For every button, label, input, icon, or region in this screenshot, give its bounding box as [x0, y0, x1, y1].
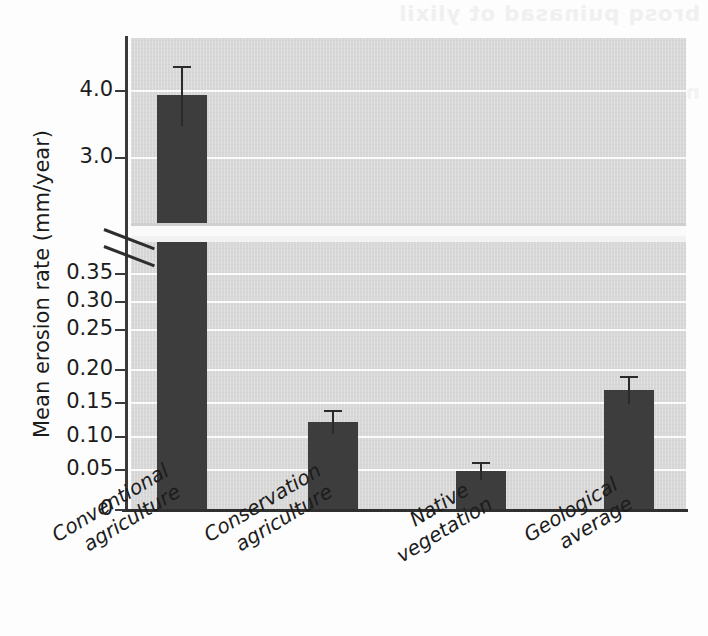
y-ticklabel-0-20: 0.20 — [0, 358, 113, 379]
y-ticklabel-3-0: 3.0 — [0, 146, 113, 167]
y-tick-0-20 — [115, 369, 125, 371]
y-axis-title: Mean erosion rate (mm/year) — [30, 74, 54, 494]
y-tick-3-0 — [115, 157, 125, 159]
y-tick-0-35 — [115, 273, 125, 275]
y-tick-0-30 — [115, 301, 125, 303]
y-axis-line — [125, 36, 128, 511]
bar-conventional-agriculture — [157, 95, 207, 509]
gridline-0-35 — [131, 273, 686, 275]
y-ticklabel-0-05: 0.05 — [0, 458, 113, 479]
bleed-through-text-top: brosq puinasad ot ylixil — [140, 2, 700, 32]
error-bar-cap-top-geological-average — [620, 376, 638, 378]
error-bar-cap-top-conventional-agriculture — [173, 66, 191, 68]
y-tick-4-0 — [115, 90, 125, 92]
y-ticklabel-0-15: 0.15 — [0, 391, 113, 412]
error-bar-line-conventional-agriculture — [181, 66, 183, 126]
error-bar-line-native-vegetation — [480, 462, 482, 480]
y-ticklabel-0-25: 0.25 — [0, 318, 113, 339]
gridline-0-30 — [131, 301, 686, 303]
y-tick-0-25 — [115, 329, 125, 331]
gridline-3-0 — [131, 157, 686, 159]
gridline-0-10 — [131, 436, 686, 438]
y-ticklabel-0-30: 0.30 — [0, 290, 113, 311]
y-ticklabel-0-35: 0.35 — [0, 262, 113, 283]
chart-figure: brosq puinasad ot ylixil noitatnemirepxe — [0, 0, 708, 636]
y-ticklabel-0-10: 0.10 — [0, 425, 113, 446]
y-tick-0-05 — [115, 469, 125, 471]
error-bar-line-conservation-agriculture — [332, 410, 334, 434]
gridline-0-20 — [131, 369, 686, 371]
y-ticklabel-4-0: 4.0 — [0, 79, 113, 100]
error-bar-line-geological-average — [628, 376, 630, 404]
y-tick-0-15 — [115, 402, 125, 404]
gridline-0-05 — [131, 469, 686, 471]
plot-area — [131, 38, 686, 509]
error-bar-cap-top-native-vegetation — [472, 462, 490, 464]
gridline-0-15 — [131, 402, 686, 404]
gridline-4-0 — [131, 90, 686, 92]
error-bar-cap-top-conservation-agriculture — [324, 410, 342, 412]
axis-break-band-lower — [131, 236, 686, 242]
gridline-0-25 — [131, 329, 686, 331]
y-tick-0-10 — [115, 436, 125, 438]
